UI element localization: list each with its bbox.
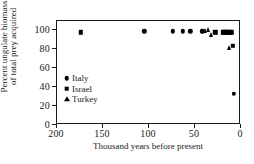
legend-item-israel[interactable]: Israel [62, 84, 98, 95]
x-axis-tick-label: 0 [237, 128, 242, 139]
y-axis-tick-label: 40 [0, 81, 50, 92]
y-axis-tick-label: 20 [0, 100, 50, 111]
plot-area [56, 20, 240, 124]
legend-label: Israel [71, 84, 92, 94]
square-marker-icon [62, 84, 71, 94]
data-point-israel [79, 30, 83, 34]
data-point-italy [181, 29, 185, 33]
y-axis-tick-label: 100 [0, 24, 50, 35]
x-axis-tick-label: 150 [94, 128, 110, 139]
y-axis-tick-label: 0 [0, 119, 50, 130]
data-point-turkey [209, 32, 213, 37]
x-axis-title: Thousand years before present [56, 141, 240, 151]
y-axis-tick-label: 60 [0, 62, 50, 73]
data-point-israel [213, 30, 217, 34]
legend-label: Turkey [71, 94, 98, 104]
data-point-italy [142, 29, 146, 33]
x-axis-tick-label: 100 [140, 128, 156, 139]
data-point-italy [171, 29, 175, 33]
scatter-plot-figure: Percent ungulate biomass of total prey a… [0, 0, 254, 164]
data-point-israel [230, 43, 234, 47]
legend-item-turkey[interactable]: Turkey [62, 94, 98, 105]
legend-item-italy[interactable]: Italy [62, 73, 98, 84]
circle-marker-icon [62, 73, 71, 83]
legend-label: Italy [71, 73, 89, 83]
y-axis-tick-label: 80 [0, 43, 50, 54]
x-axis-tick-label: 50 [189, 128, 199, 139]
x-axis-tick-label: 200 [48, 128, 64, 139]
triangle-marker-icon [62, 94, 71, 104]
data-point-israel [230, 30, 234, 34]
data-point-turkey [227, 45, 231, 50]
chart-legend: ItalyIsraelTurkey [62, 73, 98, 105]
data-point-italy [231, 92, 235, 96]
data-point-italy [188, 29, 192, 33]
